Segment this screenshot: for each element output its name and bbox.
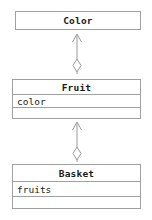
class-attribute-fruit-color: color [13, 94, 140, 107]
aggregation-fruit-to-color[interactable] [62, 29, 92, 80]
uml-class-diagram: Color Fruit color Basket fruits [0, 0, 152, 220]
class-name-color: Color [16, 12, 140, 29]
class-box-color[interactable]: Color [15, 11, 141, 30]
class-box-basket[interactable]: Basket fruits [12, 164, 141, 209]
class-name-fruit: Fruit [13, 80, 140, 94]
class-operations-fruit [13, 107, 140, 118]
hollow-diamond-icon [73, 59, 81, 72]
class-attribute-basket-fruits: fruits [13, 181, 140, 196]
class-name-basket: Basket [13, 165, 140, 181]
class-box-fruit[interactable]: Fruit color [12, 79, 141, 119]
hollow-diamond-icon [73, 147, 81, 160]
class-operations-basket [13, 196, 140, 208]
aggregation-basket-to-fruit[interactable] [62, 118, 92, 165]
